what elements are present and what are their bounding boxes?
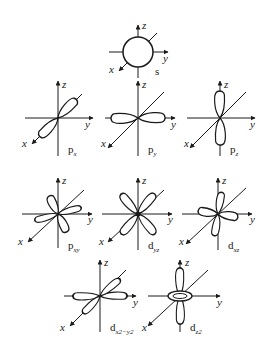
y-axis-label: y (133, 297, 138, 308)
orbital-label-pz: pz (230, 144, 238, 158)
x-axis-label: x (101, 138, 106, 149)
dz2-orbital (148, 260, 220, 332)
z-axis-label: z (224, 79, 228, 90)
orbital-label-dxz: dxz (228, 240, 239, 254)
pz-orbital (187, 81, 255, 156)
x-axis-label: x (109, 64, 114, 75)
x-axis-label: x (99, 236, 104, 247)
y-axis-label: y (168, 214, 173, 225)
y-axis-label: y (88, 214, 93, 225)
y-axis-label: y (250, 214, 255, 225)
x-axis-label: x (142, 322, 147, 333)
dyz-orbital (102, 178, 172, 250)
z-axis-label: z (142, 20, 146, 31)
z-axis-label: z (104, 257, 108, 268)
orbital-label-dyz: dyz (148, 240, 159, 254)
z-axis-label: z (62, 79, 66, 90)
orbital-label-py: py (148, 144, 157, 158)
orbital-label-dz2: dz2 (190, 322, 202, 336)
y-axis-label: y (171, 119, 176, 130)
orbital-label-dx2y2: dx2−y2 (110, 322, 133, 336)
y-axis-label: y (217, 297, 222, 308)
z-axis-label: z (62, 175, 66, 186)
py-orbital (105, 81, 175, 156)
z-axis-label: z (142, 79, 146, 90)
y-axis-label: y (250, 119, 255, 130)
x-axis-label: x (60, 322, 65, 333)
z-axis-label: z (222, 175, 226, 186)
x-axis-label: x (18, 236, 23, 247)
pxy-orbital (22, 178, 92, 248)
x-axis-label: x (179, 236, 184, 247)
px-orbital (25, 81, 93, 156)
orbital-label-s: s (155, 66, 159, 80)
x-axis-label: x (184, 138, 189, 149)
y-axis-label: y (163, 53, 168, 64)
x-axis-label: x (22, 138, 27, 149)
z-axis-label: z (142, 175, 146, 186)
orbital-label-px: px (68, 144, 77, 158)
z-axis-label: z (185, 257, 189, 268)
orbital-label-pxy: pxy (68, 240, 80, 254)
dxz-orbital (182, 178, 252, 250)
y-axis-label: y (85, 119, 90, 130)
